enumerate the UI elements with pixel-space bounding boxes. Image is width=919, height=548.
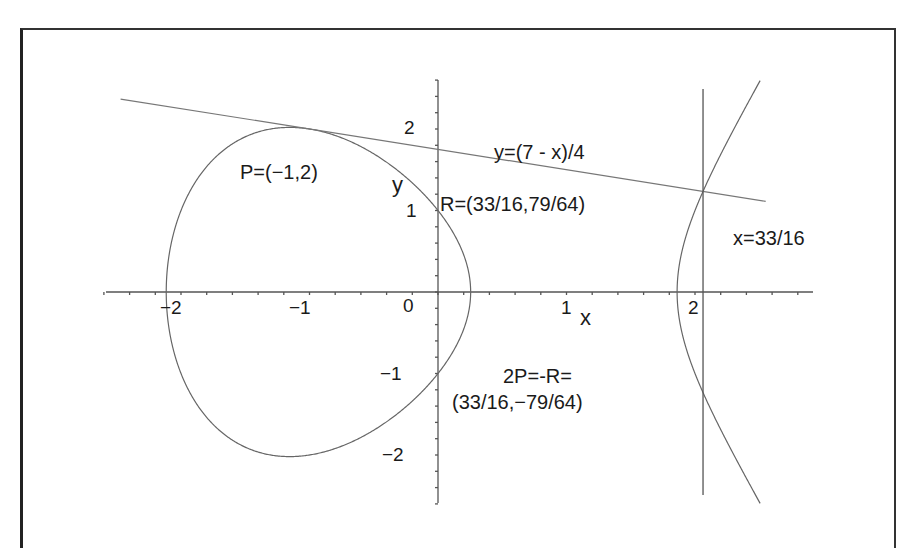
y-tick-label: 2 [404,118,415,137]
y-tick-label: 1 [406,201,417,220]
x-tick-label: −1 [289,298,311,317]
tangent-line-label: y=(7 - x)/4 [494,142,585,162]
point-p-label: P=(−1,2) [240,162,318,182]
axes [104,80,813,504]
x-tick-label: −2 [160,298,182,317]
point-r-label: R=(33/16,79/64) [440,194,585,214]
tangent-line [121,99,766,201]
x-tick-label: 0 [403,296,414,315]
vertical-line-label: x=33/16 [733,228,805,248]
y-tick-label: −1 [380,364,402,383]
x-tick-label: 1 [561,298,572,317]
point-2p-coords: (33/16,−79/64) [452,392,583,412]
y-tick-label: −2 [382,445,404,464]
x-tick-label: 2 [688,298,699,317]
y-axis-label: y [392,174,403,196]
x-axis-label: x [580,307,591,329]
point-2p-label: 2P=-R= [503,366,572,386]
